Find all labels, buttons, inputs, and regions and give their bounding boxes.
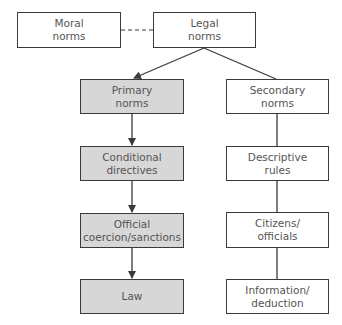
- node-label-line1: Citizens/: [255, 217, 300, 230]
- node-label-line1: Official: [83, 218, 181, 231]
- node-information-deduction: Information/deduction: [226, 279, 329, 314]
- node-label-line2: officials: [255, 230, 300, 243]
- node-label-line2: directives: [102, 164, 161, 177]
- node-label-line1: Conditional: [102, 151, 161, 164]
- node-label-line1: Secondary: [250, 84, 306, 97]
- node-citizens-officials: Citizens/officials: [226, 212, 329, 248]
- node-conditional-directives: Conditionaldirectives: [80, 146, 184, 181]
- node-label-line2: norms: [112, 97, 153, 110]
- node-label-line1: Legal: [188, 17, 221, 30]
- node-label-line2: norms: [188, 30, 221, 43]
- node-label-line1: Moral: [53, 17, 86, 30]
- node-label-line1: Primary: [112, 84, 153, 97]
- node-secondary-norms: Secondarynorms: [226, 79, 329, 114]
- node-label-line2: coercion/sanctions: [83, 231, 181, 244]
- node-label-line2: deduction: [245, 297, 309, 310]
- node-moral-norms: Moralnorms: [17, 12, 121, 48]
- node-primary-norms: Primarynorms: [80, 79, 184, 114]
- node-law: Law: [80, 279, 184, 314]
- node-label-line2: norms: [53, 30, 86, 43]
- node-descriptive-rules: Descriptiverules: [226, 146, 329, 181]
- node-label-line2: norms: [250, 97, 306, 110]
- node-label-line1: Descriptive: [248, 151, 307, 164]
- line-legal-to-secondary: [204, 48, 276, 79]
- node-label-line1: Information/: [245, 284, 309, 297]
- arrow-legal-to-primary: [134, 48, 204, 78]
- node-label-line2: rules: [248, 164, 307, 177]
- node-legal-norms: Legalnorms: [153, 12, 256, 48]
- node-label-line1: Law: [122, 290, 143, 303]
- node-official-coercion-sanctions: Officialcoercion/sanctions: [80, 213, 184, 248]
